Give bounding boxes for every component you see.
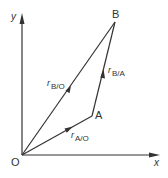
vector-r-a-o-label: rA/O <box>71 131 89 140</box>
origin-label: O <box>11 157 20 168</box>
relative-position-diagram: y x O A B rB/O rB/A rA/O <box>0 0 168 178</box>
y-axis-arrowhead-icon <box>20 13 25 24</box>
vector-r-b-a-label: rB/A <box>108 66 125 75</box>
y-axis-label: y <box>11 12 16 22</box>
point-b-label: B <box>112 9 119 20</box>
vector-r-b-o-label: rB/O <box>47 79 65 88</box>
x-axis-label: x <box>154 158 159 168</box>
point-a-label: A <box>95 110 102 121</box>
diagram-lines <box>0 0 168 178</box>
